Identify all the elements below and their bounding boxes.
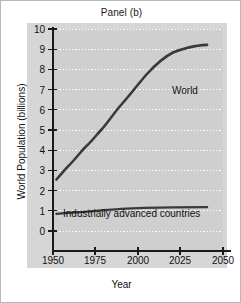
series-line-world [56,45,207,180]
y-tick-label-10: 10 [27,24,45,35]
y-tick-label-7: 7 [27,84,45,95]
y-tick-label-2: 2 [27,185,45,196]
x-tick-label-2050: 2050 [203,255,241,266]
y-tick-label-5: 5 [27,125,45,136]
chart-figure: Panel (b) [0,0,241,303]
x-axis-title: Year [1,279,241,290]
series-label-world: World [172,85,198,96]
x-tick-label-1975: 1975 [75,255,115,266]
x-tick-label-2000: 2000 [118,255,158,266]
y-tick-label-0: 0 [27,226,45,237]
y-axis-title: World Population (billions) [16,57,27,227]
x-tick-label-2025: 2025 [160,255,200,266]
y-tick-label-1: 1 [27,205,45,216]
series-label-industrial: Industrially advanced countries [63,208,200,219]
x-tick-label-1950: 1950 [33,255,73,266]
y-tick-label-4: 4 [27,145,45,156]
y-tick-label-6: 6 [27,104,45,115]
y-tick-label-3: 3 [27,165,45,176]
y-tick-label-9: 9 [27,44,45,55]
y-tick-label-8: 8 [27,64,45,75]
gridlines [53,29,223,231]
